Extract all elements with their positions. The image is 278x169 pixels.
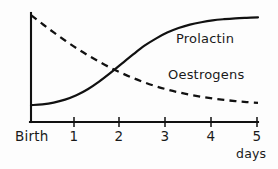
x-axis-origin-label: Birth — [15, 130, 48, 144]
x-tick-label-3: 3 — [161, 130, 170, 144]
x-tick-label-4: 4 — [207, 130, 216, 144]
series-label-oestrogens: Oestrogens — [168, 68, 244, 81]
oestrogens-curve — [31, 15, 258, 103]
series-label-prolactin: Prolactin — [176, 32, 234, 45]
x-tick-label-1: 1 — [70, 130, 79, 144]
x-axis-title: days — [236, 148, 266, 161]
x-tick-label-2: 2 — [115, 130, 124, 144]
x-tick-label-5: 5 — [253, 130, 262, 144]
hormone-levels-chart: Birth 1 2 3 4 5 days Prolactin Oestrogen… — [0, 0, 278, 169]
